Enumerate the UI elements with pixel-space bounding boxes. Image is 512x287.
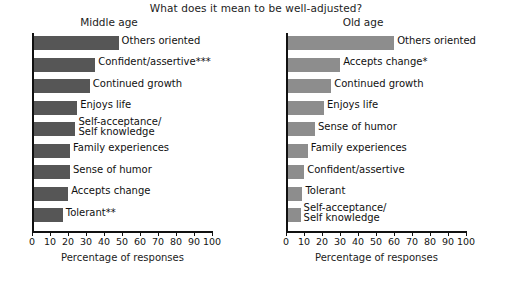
x-tick-label: 50 — [116, 236, 128, 247]
bar — [34, 79, 90, 93]
bar-label: Confident/assertive — [307, 165, 404, 176]
bar-label: Family experiences — [311, 143, 407, 154]
bar-row: Enjoys life — [32, 101, 212, 115]
bar-label: Accepts change — [71, 186, 150, 197]
x-tick-label: 30 — [334, 236, 346, 247]
bar — [288, 58, 340, 72]
x-axis-label: Percentage of responses — [286, 252, 467, 263]
bar-row: Others oriented — [32, 36, 212, 50]
bar — [34, 101, 77, 115]
bar-row: Confident/assertive*** — [32, 58, 212, 72]
bar — [288, 144, 308, 158]
bar — [34, 187, 68, 201]
bar — [288, 122, 315, 136]
bar-label: Continued growth — [93, 79, 182, 90]
x-tick-label: 40 — [98, 236, 110, 247]
bar-label: Sense of humor — [318, 122, 397, 133]
bar-row: Others oriented — [286, 36, 466, 50]
x-tick-label: 70 — [152, 236, 164, 247]
bar-label: Enjoys life — [80, 100, 131, 111]
x-tick-label: 70 — [406, 236, 418, 247]
chart-figure: What does it mean to be well-adjusted? M… — [0, 0, 512, 287]
bar-label: Enjoys life — [327, 100, 378, 111]
bar-row: Family experiences — [32, 144, 212, 158]
bar — [34, 58, 95, 72]
bar-row: Sense of humor — [286, 122, 466, 136]
x-tick-label: 60 — [388, 236, 400, 247]
bar-row: Self-acceptance/ Self knowledge — [32, 122, 212, 136]
bar-label: Confident/assertive*** — [98, 57, 210, 68]
x-axis-tick-labels: 0102030405060708090100 — [286, 236, 467, 250]
x-tick-label: 90 — [442, 236, 454, 247]
bar-row: Confident/assertive — [286, 165, 466, 179]
bar-row: Continued growth — [286, 79, 466, 93]
bar-row: Enjoys life — [286, 101, 466, 115]
plot-area-old-age: 0102030405060708090100 Others orientedAc… — [286, 33, 466, 231]
x-axis-tick-labels: 0102030405060708090100 — [32, 236, 213, 250]
panel-title-middle-age: Middle age — [4, 16, 214, 28]
x-tick-label: 10 — [44, 236, 56, 247]
bar-row: Sense of humor — [32, 165, 212, 179]
x-tick-label: 20 — [62, 236, 74, 247]
x-axis-label: Percentage of responses — [32, 252, 213, 263]
bar — [288, 208, 301, 222]
bar — [288, 79, 331, 93]
bar — [288, 101, 324, 115]
x-tick-label: 80 — [424, 236, 436, 247]
panel-middle-age: Middle age 0102030405060708090100 Others… — [4, 16, 250, 284]
bar-row: Tolerant — [286, 187, 466, 201]
bar — [34, 144, 70, 158]
x-tick-label: 10 — [298, 236, 310, 247]
bar — [34, 36, 119, 50]
bar-row: Tolerant** — [32, 208, 212, 222]
x-tick-label: 20 — [316, 236, 328, 247]
panel-title-old-age: Old age — [258, 16, 468, 28]
bar — [288, 187, 302, 201]
bar-label: Tolerant** — [66, 208, 116, 219]
bar-label: Family experiences — [73, 143, 169, 154]
bar-row: Self-acceptance/ Self knowledge — [286, 208, 466, 222]
bar-label: Self-acceptance/ Self knowledge — [78, 117, 161, 138]
bar-row: Accepts change — [32, 187, 212, 201]
x-tick-label: 0 — [29, 236, 35, 247]
bar — [34, 165, 70, 179]
x-tick-label: 50 — [370, 236, 382, 247]
bar-label: Self-acceptance/ Self knowledge — [304, 203, 387, 224]
bar-label: Continued growth — [334, 79, 423, 90]
x-tick-label: 90 — [188, 236, 200, 247]
bar — [288, 165, 304, 179]
x-tick-label: 0 — [283, 236, 289, 247]
chart-title: What does it mean to be well-adjusted? — [0, 2, 512, 14]
x-tick-label: 30 — [80, 236, 92, 247]
x-tick-label: 100 — [457, 236, 475, 247]
plot-area-middle-age: 0102030405060708090100 Others orientedCo… — [32, 33, 212, 231]
bar — [288, 36, 394, 50]
bar-label: Others oriented — [122, 36, 201, 47]
bar — [34, 122, 75, 136]
bar-row: Family experiences — [286, 144, 466, 158]
bar-label: Accepts change* — [343, 57, 427, 68]
x-tick-label: 40 — [352, 236, 364, 247]
bar-label: Others oriented — [397, 36, 476, 47]
bar — [34, 208, 63, 222]
bar-row: Accepts change* — [286, 58, 466, 72]
bar-label: Sense of humor — [73, 165, 152, 176]
x-tick-label: 60 — [134, 236, 146, 247]
x-tick-label: 80 — [170, 236, 182, 247]
panel-old-age: Old age 0102030405060708090100 Others or… — [258, 16, 504, 284]
bar-label: Tolerant — [305, 186, 345, 197]
x-tick-label: 100 — [203, 236, 221, 247]
bar-row: Continued growth — [32, 79, 212, 93]
